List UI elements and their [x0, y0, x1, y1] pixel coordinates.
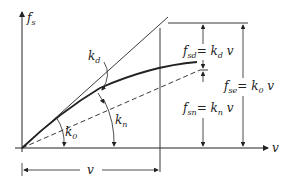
fse-label: fse= k0 v — [223, 79, 274, 95]
y-axis-label: fs — [26, 11, 36, 27]
stiffness-diagram: fs v kd k0 kn fsd= kd v fsn= kn v fse= k… — [0, 0, 290, 188]
kd-angle-arc — [98, 93, 104, 103]
k0-label: k0 — [65, 125, 77, 141]
kn-angle-arc — [104, 100, 114, 146]
fsd-label: fsd= kd v — [182, 44, 234, 60]
force-displacement-curve — [22, 62, 197, 148]
x-axis-label: v — [272, 141, 279, 155]
secant-line-kn — [22, 70, 200, 148]
kd-label: kd — [88, 49, 100, 65]
v-dimension-label: v — [87, 163, 94, 177]
diagram-svg: fs v kd k0 kn fsd= kd v fsn= kn v fse= k… — [0, 0, 290, 188]
kn-label: kn — [115, 113, 127, 129]
fsn-label: fsn= kn v — [182, 101, 234, 117]
